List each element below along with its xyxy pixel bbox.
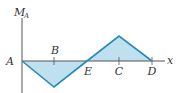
positive-moment-region (87, 36, 152, 61)
label-c: C (115, 65, 124, 78)
x-axis-label: x (167, 54, 174, 67)
label-a: A (5, 55, 14, 68)
label-e: E (83, 65, 92, 78)
y-axis-subscript: A (23, 12, 29, 20)
negative-moment-region (22, 61, 87, 87)
label-b: B (50, 44, 59, 57)
label-d: D (147, 65, 157, 78)
moment-diagram: M A A B E C D x (0, 0, 180, 93)
